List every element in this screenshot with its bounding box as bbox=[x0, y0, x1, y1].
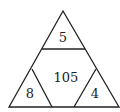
center-value: 105 bbox=[54, 70, 79, 85]
bottom-right-value: 4 bbox=[91, 86, 99, 101]
left-inner-triangle bbox=[32, 69, 52, 107]
triangle-diagram: 5 105 8 4 bbox=[0, 0, 120, 112]
bottom-left-value: 8 bbox=[26, 86, 34, 101]
top-value: 5 bbox=[59, 30, 67, 45]
